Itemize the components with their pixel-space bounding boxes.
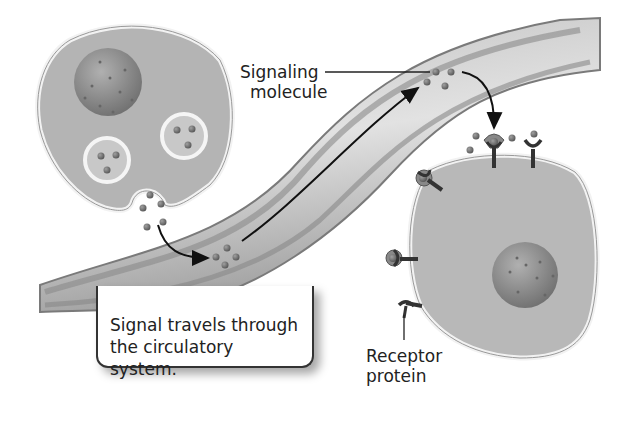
callout-line: the circulatory system. <box>110 336 304 380</box>
nucleus <box>74 48 142 116</box>
vesicle <box>162 114 206 158</box>
label-line: molecule <box>240 82 327 102</box>
receptor-empty-lower-left <box>399 302 422 318</box>
receptor-protein-label: Receptor protein <box>366 346 442 386</box>
callout-line: Signal travels through <box>110 314 304 336</box>
signaling-molecule-label: Signaling molecule <box>240 62 327 102</box>
label-line: protein <box>366 366 442 386</box>
label-line: Signaling <box>240 62 327 82</box>
vesicle <box>85 138 129 182</box>
label-line: Receptor <box>366 346 442 366</box>
nucleus <box>492 242 558 308</box>
secreting-cell <box>38 26 233 230</box>
circulatory-callout-box: Signal travels through the circulatory s… <box>96 286 314 368</box>
